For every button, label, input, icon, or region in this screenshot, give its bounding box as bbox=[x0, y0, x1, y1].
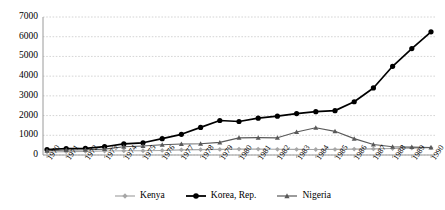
y-axis-tick-labels: 01000200030004000500060007000 bbox=[0, 0, 42, 210]
legend-item-korea-rep[interactable]: Korea, Rep. bbox=[185, 191, 257, 201]
y-axis-tick-7000: 7000 bbox=[19, 12, 38, 22]
data-point-marker bbox=[390, 64, 395, 69]
y-axis-tick-6000: 6000 bbox=[19, 32, 38, 42]
data-point-marker bbox=[179, 132, 184, 137]
x-axis-tick-labels: 1970197119721973197419751976197719781979… bbox=[43, 157, 435, 187]
legend-swatch-triangle-icon bbox=[276, 191, 298, 201]
data-point-marker bbox=[275, 114, 280, 119]
y-axis-tick-1000: 1000 bbox=[19, 130, 38, 140]
data-point-marker bbox=[217, 118, 222, 123]
y-axis-tick-3000: 3000 bbox=[19, 91, 38, 101]
data-point-marker bbox=[256, 116, 261, 121]
line-chart: 01000200030004000500060007000 1970197119… bbox=[0, 0, 445, 210]
data-point-marker bbox=[236, 119, 241, 124]
data-point-marker bbox=[371, 85, 376, 90]
plot-svg bbox=[43, 17, 435, 155]
legend-swatch-diamond-icon bbox=[114, 191, 136, 201]
data-point-marker bbox=[313, 109, 318, 114]
y-axis-tick-2000: 2000 bbox=[19, 111, 38, 121]
plot-area bbox=[43, 17, 435, 155]
legend-label: Korea, Rep. bbox=[211, 191, 257, 201]
data-point-marker bbox=[313, 125, 318, 129]
legend-swatch-circle-icon bbox=[185, 191, 207, 201]
data-point-marker bbox=[352, 99, 357, 104]
y-axis-tick-4000: 4000 bbox=[19, 71, 38, 81]
data-point-marker bbox=[332, 108, 337, 113]
series-line-korea-rep bbox=[47, 32, 431, 150]
legend-item-nigeria[interactable]: Nigeria bbox=[276, 191, 331, 201]
data-point-marker bbox=[160, 136, 165, 141]
data-point-marker bbox=[409, 46, 414, 51]
chart-legend: KenyaKorea, Rep.Nigeria bbox=[0, 186, 445, 206]
data-point-marker bbox=[294, 111, 299, 116]
legend-item-kenya[interactable]: Kenya bbox=[114, 191, 165, 201]
y-axis-tick-5000: 5000 bbox=[19, 51, 38, 61]
data-point-marker bbox=[428, 29, 433, 34]
legend-label: Nigeria bbox=[302, 191, 331, 201]
legend-label: Kenya bbox=[140, 191, 165, 201]
data-point-marker bbox=[198, 125, 203, 130]
y-axis-tick-0: 0 bbox=[33, 150, 38, 160]
